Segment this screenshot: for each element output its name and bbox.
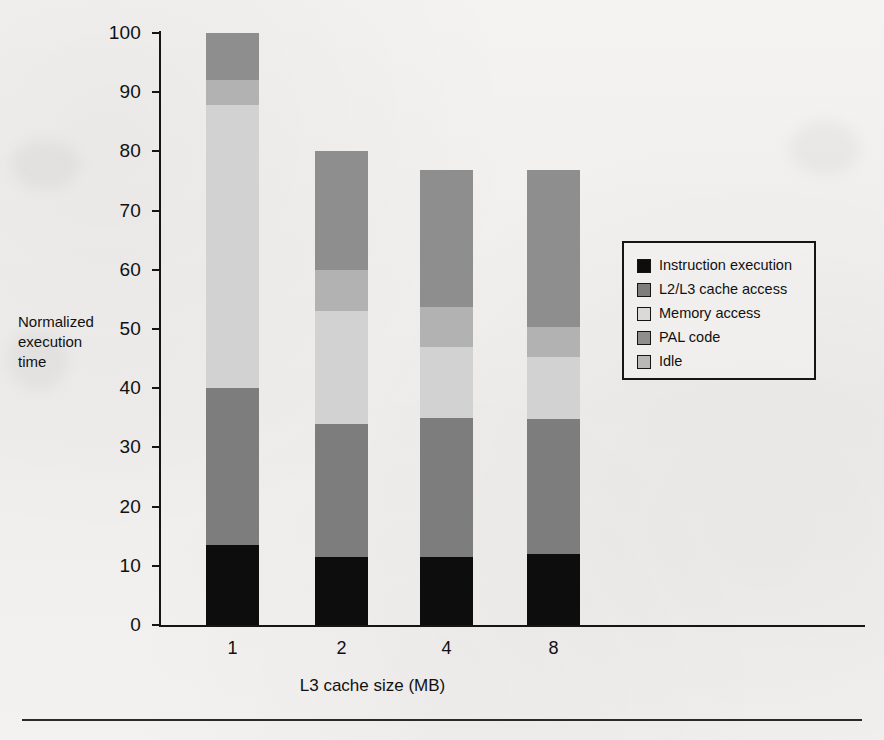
legend-item: Instruction execution [637, 254, 814, 277]
chart-legend: Instruction executionL2/L3 cache accessM… [622, 241, 816, 380]
bar-segment[interactable] [420, 418, 473, 557]
y-tick-label: 10 [95, 556, 141, 575]
bar-segment[interactable] [206, 545, 259, 625]
y-tick-mark [152, 506, 161, 508]
page-horizontal-rule [22, 719, 862, 721]
bar-segment[interactable] [527, 419, 580, 554]
y-tick-label: 0 [95, 615, 141, 634]
bar-segment[interactable] [420, 170, 473, 306]
y-tick-label: 20 [95, 497, 141, 516]
legend-label: Instruction execution [659, 258, 792, 273]
y-tick-label: 100 [95, 23, 141, 42]
bar-8[interactable] [527, 33, 580, 625]
stacked-bar-chart: Normalized execution time 01020304050607… [0, 0, 884, 740]
bar-segment[interactable] [315, 557, 368, 625]
y-tick-label: 40 [95, 378, 141, 397]
y-axis-title-line-3: time [18, 352, 128, 372]
x-tick-label: 8 [524, 638, 584, 659]
y-tick-mark [152, 210, 161, 212]
y-tick-mark [152, 446, 161, 448]
bar-segment[interactable] [315, 151, 368, 269]
bar-segment[interactable] [206, 33, 259, 80]
bar-segment[interactable] [420, 307, 473, 347]
x-axis-line [159, 625, 865, 627]
y-tick-label: 60 [95, 260, 141, 279]
bar-segment[interactable] [315, 270, 368, 311]
bar-2[interactable] [315, 33, 368, 625]
y-tick-label: 50 [95, 319, 141, 338]
bar-segment[interactable] [420, 557, 473, 625]
x-axis-title: L3 cache size (MB) [160, 676, 585, 696]
bar-4[interactable] [420, 33, 473, 625]
y-tick-mark [152, 565, 161, 567]
bar-1[interactable] [206, 33, 259, 625]
y-tick-label: 70 [95, 201, 141, 220]
legend-swatch-icon [637, 331, 651, 345]
y-tick-label: 90 [95, 82, 141, 101]
y-tick-label: 80 [95, 141, 141, 160]
legend-swatch-icon [637, 259, 651, 273]
bar-segment[interactable] [527, 170, 580, 327]
legend-item: Memory access [637, 302, 814, 325]
bar-segment[interactable] [206, 105, 259, 388]
bar-segment[interactable] [527, 357, 580, 419]
y-tick-label: 30 [95, 437, 141, 456]
bar-segment[interactable] [527, 554, 580, 625]
bar-segment[interactable] [315, 311, 368, 423]
legend-label: PAL code [659, 330, 720, 345]
y-tick-mark [152, 150, 161, 152]
legend-swatch-icon [637, 355, 651, 369]
bar-segment[interactable] [206, 80, 259, 105]
legend-swatch-icon [637, 283, 651, 297]
bar-segment[interactable] [206, 388, 259, 545]
y-tick-mark [152, 624, 161, 626]
legend-label: L2/L3 cache access [659, 282, 787, 297]
legend-label: Idle [659, 354, 682, 369]
y-tick-mark [152, 32, 161, 34]
legend-label: Memory access [659, 306, 761, 321]
bar-segment[interactable] [420, 347, 473, 418]
y-tick-mark [152, 269, 161, 271]
y-tick-mark [152, 387, 161, 389]
y-tick-mark [152, 328, 161, 330]
x-tick-label: 2 [312, 638, 372, 659]
legend-swatch-icon [637, 307, 651, 321]
legend-item: PAL code [637, 326, 814, 349]
legend-item: L2/L3 cache access [637, 278, 814, 301]
y-tick-mark [152, 91, 161, 93]
x-tick-label: 1 [203, 638, 263, 659]
legend-item: Idle [637, 350, 814, 373]
bar-segment[interactable] [315, 424, 368, 557]
bar-segment[interactable] [527, 327, 580, 357]
x-tick-label: 4 [417, 638, 477, 659]
